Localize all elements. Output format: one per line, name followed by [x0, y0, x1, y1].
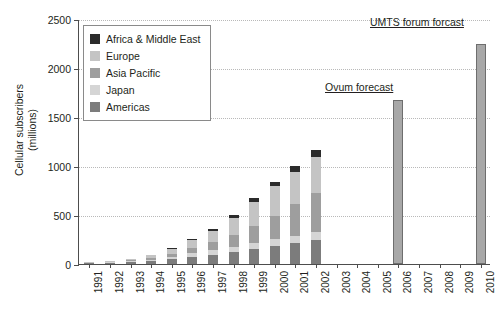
x-tick-2005	[378, 264, 379, 268]
x-tick-1992	[110, 264, 111, 268]
y-tick-2000	[74, 69, 79, 70]
bar-segment-1998-asia-pacific	[229, 235, 239, 247]
x-tick-1993	[131, 264, 132, 268]
x-axis-label-1999: 1999	[258, 271, 269, 293]
x-tick-2006	[398, 264, 399, 268]
x-axis-label-2004: 2004	[361, 271, 372, 293]
bar-segment-1994-americas	[146, 261, 156, 264]
legend-item-asia-pacific: Asia Pacific	[90, 64, 204, 81]
y-tick-1000	[74, 167, 79, 168]
bar-segment-2000-japan	[270, 239, 280, 246]
x-axis-label-2001: 2001	[299, 271, 310, 293]
x-tick-1999	[254, 264, 255, 268]
y-axis-title-line2: (millions)	[26, 109, 38, 151]
x-axis-label-2008: 2008	[444, 271, 455, 293]
umts-forum-forecast-label: UMTS forum forcast	[370, 16, 464, 28]
legend-item-africa-middle-east: Africa & Middle East	[90, 30, 204, 47]
forecast-bar-2010	[476, 44, 486, 265]
bar-segment-2001-japan	[290, 236, 300, 243]
stacked-bar-1998	[229, 215, 239, 264]
bar-segment-1995-americas	[167, 259, 177, 264]
x-axis-label-1991: 1991	[93, 271, 104, 293]
stacked-bar-1997	[208, 229, 218, 264]
chart-legend: Africa & Middle EastEuropeAsia PacificJa…	[83, 25, 211, 121]
bar-segment-1999-asia-pacific	[249, 226, 259, 243]
bar-segment-1993-americas	[126, 262, 136, 264]
stacked-bar-1993	[126, 259, 136, 264]
legend-item-japan: Japan	[90, 81, 204, 98]
x-axis-label-1995: 1995	[176, 271, 187, 293]
bar-segment-2002-europe	[311, 157, 321, 193]
y-tick-label-0: 0	[65, 259, 71, 271]
y-tick-0	[74, 265, 79, 266]
x-tick-2009	[460, 264, 461, 268]
x-tick-1994	[151, 264, 152, 268]
stacked-bar-1994	[146, 255, 156, 264]
x-axis-label-2006: 2006	[402, 271, 413, 293]
y-tick-2500	[74, 20, 79, 21]
x-axis-label-2007: 2007	[423, 271, 434, 293]
stacked-bar-2002	[311, 150, 321, 264]
bar-segment-2002-japan	[311, 232, 321, 240]
y-axis-title: Cellular subscribers (millions)	[13, 50, 38, 210]
legend-item-americas: Americas	[90, 98, 204, 115]
bar-segment-1997-americas	[208, 255, 218, 264]
y-axis-title-line1: Cellular subscribers	[13, 84, 25, 176]
y-tick-label-1500: 1500	[48, 112, 71, 124]
stacked-bar-1991	[84, 262, 94, 264]
x-tick-1991	[89, 264, 90, 268]
x-tick-2008	[440, 264, 441, 268]
x-tick-2003	[337, 264, 338, 268]
x-tick-1995	[172, 264, 173, 268]
legend-swatch-icon	[90, 51, 100, 61]
x-tick-2001	[295, 264, 296, 268]
legend-label: Americas	[106, 101, 150, 113]
legend-swatch-icon	[90, 34, 100, 44]
x-axis-label-1993: 1993	[135, 271, 146, 293]
x-axis-label-2002: 2002	[320, 271, 331, 293]
ovum-forecast-label: Ovum forecast	[325, 81, 393, 93]
x-tick-1997	[213, 264, 214, 268]
y-tick-label-2500: 2500	[48, 14, 71, 26]
bar-segment-2000-asia-pacific	[270, 216, 280, 240]
legend-label: Asia Pacific	[106, 67, 160, 79]
legend-label: Europe	[106, 50, 140, 62]
bar-segment-1997-asia-pacific	[208, 242, 218, 250]
bar-segment-2002-americas	[311, 240, 321, 264]
forecast-bar-2006	[393, 100, 403, 264]
x-axis-label-2005: 2005	[382, 271, 393, 293]
x-tick-1998	[234, 264, 235, 268]
x-tick-1996	[192, 264, 193, 268]
bar-segment-1991-americas	[84, 263, 94, 264]
stacked-bar-1999	[249, 198, 259, 264]
gridline-500	[79, 216, 490, 217]
x-tick-2010	[481, 264, 482, 268]
x-tick-2000	[275, 264, 276, 268]
stacked-bar-1995	[167, 248, 177, 264]
stacked-bar-2000	[270, 181, 280, 264]
legend-swatch-icon	[90, 68, 100, 78]
bar-segment-1992-americas	[105, 263, 115, 264]
bar-segment-2001-americas	[290, 243, 300, 264]
x-tick-2007	[419, 264, 420, 268]
bar-segment-2001-europe	[290, 172, 300, 204]
x-axis-label-2003: 2003	[341, 271, 352, 293]
x-axis-label-1996: 1996	[196, 271, 207, 293]
bar-segment-1998-americas	[229, 252, 239, 264]
x-axis-label-2000: 2000	[279, 271, 290, 293]
legend-swatch-icon	[90, 85, 100, 95]
x-axis-label-2010: 2010	[485, 271, 496, 293]
x-axis-label-1998: 1998	[238, 271, 249, 293]
bar-segment-1996-americas	[187, 257, 197, 264]
cellular-subscribers-chart: Cellular subscribers (millions) 05001000…	[0, 0, 497, 318]
x-axis-label-1994: 1994	[155, 271, 166, 293]
bar-segment-1999-europe	[249, 202, 259, 227]
x-tick-2004	[357, 264, 358, 268]
y-tick-label-1000: 1000	[48, 161, 71, 173]
y-tick-1500	[74, 118, 79, 119]
bar-segment-2002-asia-pacific	[311, 193, 321, 232]
legend-swatch-icon	[90, 102, 100, 112]
bar-segment-1998-europe	[229, 218, 239, 235]
gridline-1000	[79, 167, 490, 168]
x-axis-label-1992: 1992	[114, 271, 125, 293]
